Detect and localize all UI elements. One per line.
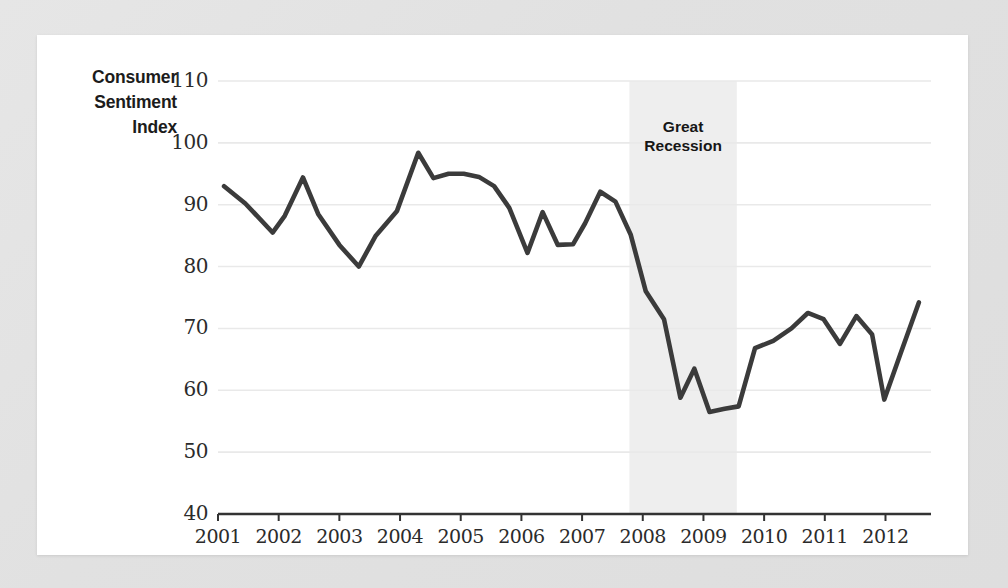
- x-tick-label-2001: 2001: [187, 525, 249, 547]
- x-tick-label-2004: 2004: [369, 525, 431, 547]
- x-tick-label-2010: 2010: [733, 525, 795, 547]
- x-tick-label-2005: 2005: [430, 525, 492, 547]
- x-tick-label-2006: 2006: [490, 525, 552, 547]
- y-tick-label-100: 100: [164, 130, 208, 154]
- x-tick-label-2011: 2011: [794, 525, 856, 547]
- y-tick-label-80: 80: [164, 254, 208, 278]
- y-tick-label-40: 40: [164, 501, 208, 525]
- x-tick-label-2003: 2003: [308, 525, 370, 547]
- y-tick-label-50: 50: [164, 439, 208, 463]
- y-tick-label-110: 110: [164, 68, 208, 92]
- x-tick-label-2012: 2012: [854, 525, 916, 547]
- chart-card: Consumer Sentiment Index Great Recession…: [37, 35, 968, 555]
- y-gridlines: [218, 81, 931, 452]
- y-axis-title-line-2: Sentiment: [59, 90, 177, 115]
- y-axis-title: Consumer Sentiment Index: [59, 65, 177, 140]
- great-recession-annotation-label: Great Recession: [599, 117, 766, 155]
- page-background: Consumer Sentiment Index Great Recession…: [0, 0, 1008, 588]
- y-tick-label-90: 90: [164, 192, 208, 216]
- y-axis-title-line-1: Consumer: [59, 65, 177, 90]
- x-tick-label-2002: 2002: [248, 525, 310, 547]
- consumer-sentiment-line: [224, 153, 919, 412]
- consumer-sentiment-chart: Consumer Sentiment Index Great Recession…: [37, 35, 968, 555]
- y-axis-title-line-3: Index: [59, 115, 177, 140]
- y-tick-label-70: 70: [164, 315, 208, 339]
- y-tick-label-60: 60: [164, 377, 208, 401]
- x-tick-label-2007: 2007: [551, 525, 613, 547]
- x-tick-label-2009: 2009: [672, 525, 734, 547]
- great-recession-label-line-2: Recession: [599, 136, 766, 155]
- great-recession-label-line-1: Great: [599, 117, 766, 136]
- x-tick-label-2008: 2008: [612, 525, 674, 547]
